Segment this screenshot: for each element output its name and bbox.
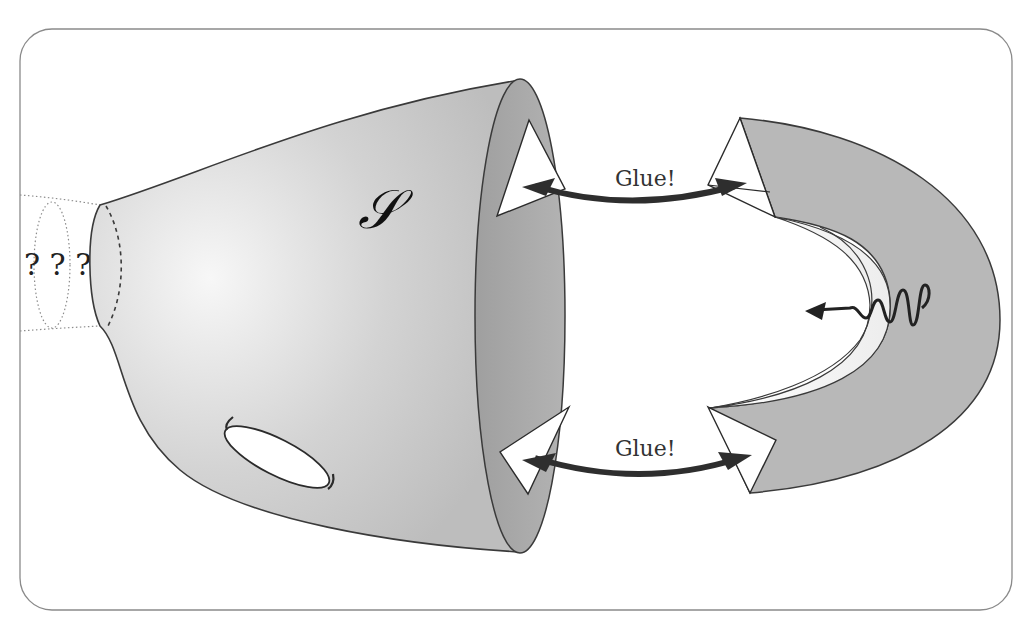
glue-top-label: Glue! (615, 166, 676, 191)
unknown-label: ? ? ? (24, 247, 91, 282)
glue-bottom-label: Glue! (615, 436, 676, 461)
gluing-diagram: ? ? ? 𝒮 Glue! Glue! (0, 0, 1031, 631)
u-shaped-handle (708, 118, 1000, 493)
